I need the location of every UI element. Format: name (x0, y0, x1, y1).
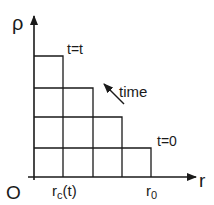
staircase-steps (34, 56, 151, 177)
label-time: time (119, 83, 147, 100)
origin-label: O (6, 182, 21, 203)
y-axis-label: ρ (12, 12, 23, 34)
x-axis-label: r (199, 170, 206, 191)
label-t-equals-0: t=0 (157, 133, 177, 149)
x-tick-rc-suffix: (t) (63, 182, 77, 199)
x-tick-r0-sub: 0 (151, 189, 157, 201)
x-tick-r0: r0 (146, 182, 157, 201)
x-tick-rc: rc(t) (52, 182, 77, 201)
staircase-diagram: ρ r O rc(t) r0 t=t t=0 time (0, 0, 214, 205)
label-t-equals-t: t=t (67, 41, 83, 57)
step-3 (34, 117, 122, 177)
